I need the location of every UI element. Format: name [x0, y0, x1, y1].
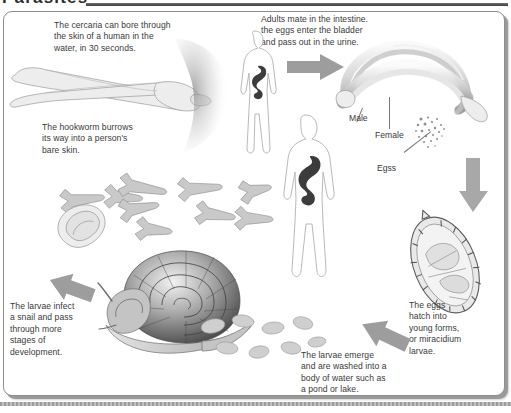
egg-spray	[415, 116, 455, 152]
page-title: Parasites	[2, 0, 88, 8]
label-male: Male	[349, 113, 368, 123]
caption-hookworm-text: The hookworm burrows its way into a pers…	[42, 122, 133, 155]
caption-cercaria: The cercaria can bore through the skin o…	[54, 20, 204, 54]
leader-line-female	[389, 97, 390, 129]
parasite-life-cycle-page: Parasites	[0, 0, 511, 413]
caption-larvae-infect-snail-text: The larvae infect a snail and pass throu…	[10, 301, 74, 357]
human-figure-female	[269, 112, 344, 292]
caption-larvae-infect-snail: The larvae infect a snail and pass throu…	[10, 301, 90, 358]
page-header: Parasites	[0, 0, 511, 10]
header-rule	[86, 3, 508, 6]
label-eggs: Egss	[377, 163, 396, 173]
caption-eggs-hatch-text: The eggs hatch into young forms, or mira…	[409, 300, 461, 356]
label-female: Female	[375, 130, 404, 140]
diagram-frame: The cercaria can bore through the skin o…	[3, 11, 505, 396]
arrow-down-left-to-water	[361, 307, 413, 349]
arrow-up-left-to-snail	[49, 260, 97, 302]
caption-eggs-hatch: The eggs hatch into young forms, or mira…	[409, 300, 489, 357]
caption-cercaria-text: The cercaria can bore through the skin o…	[54, 20, 171, 53]
encysted-larva	[52, 202, 110, 250]
arrow-down-to-eggs	[459, 158, 489, 214]
larvae-cluster-water	[199, 312, 329, 370]
caption-hookworm: The hookworm burrows its way into a pers…	[42, 122, 177, 156]
page-bottom-rule	[0, 402, 511, 406]
